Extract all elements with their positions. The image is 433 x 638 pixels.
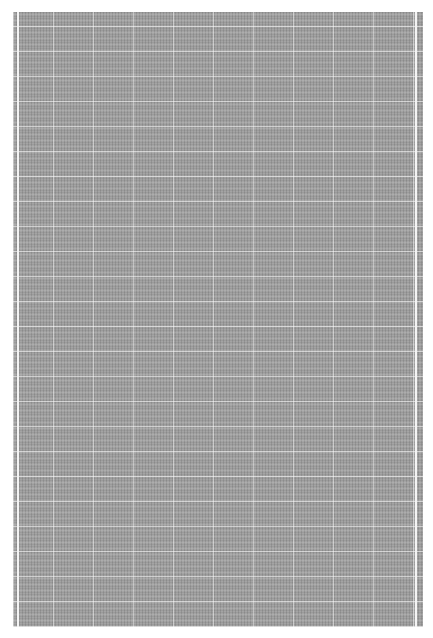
texture-swatch [13, 12, 423, 627]
left-edge-strip [17, 12, 19, 627]
right-edge-strip [415, 12, 417, 627]
